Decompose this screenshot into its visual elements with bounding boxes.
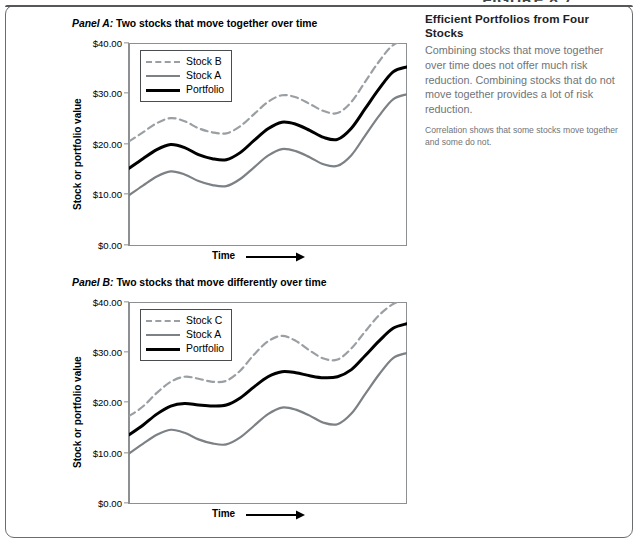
- legend-item[interactable]: Stock C: [146, 314, 224, 328]
- stock-c-line-icon: [146, 320, 180, 322]
- figure-page: FIGURE 8.7 Efficient Portfolios from Fou…: [0, 0, 640, 545]
- panel-b-ytick-10: $10.00: [78, 448, 122, 459]
- legend-label: Portfolio: [186, 343, 224, 355]
- panel-a-x-axis-label: Time: [212, 250, 235, 261]
- figure-number: FIGURE 8.7: [425, 0, 630, 2]
- stock-a-line-icon: [146, 75, 180, 77]
- panel-b-label: Panel B:: [72, 277, 114, 288]
- sidebar-body: Combining stocks that move together over…: [425, 43, 625, 116]
- sidebar-heading: Efficient Portfolios from Four Stocks: [425, 12, 625, 40]
- stock-a-line-icon: [146, 334, 180, 336]
- sidebar-note: Correlation shows that some stocks move …: [425, 125, 625, 148]
- panel-a-ytick-40: $40.00: [78, 38, 122, 49]
- legend-label: Portfolio: [186, 84, 224, 96]
- legend-item[interactable]: Portfolio: [146, 342, 224, 356]
- panel-a-label: Panel A:: [72, 18, 113, 29]
- panel-a-ytick-30: $30.00: [78, 88, 122, 99]
- panel-a-ytick-10: $10.00: [78, 189, 122, 200]
- legend-label: Stock A: [186, 70, 221, 82]
- stock-b-line-icon: [146, 61, 180, 63]
- legend-item[interactable]: Stock A: [146, 328, 224, 342]
- panel-b-x-axis-label: Time: [212, 508, 235, 519]
- panel-b-legend: Stock C Stock A Portfolio: [140, 309, 232, 361]
- legend-item[interactable]: Stock A: [146, 69, 224, 83]
- panel-b-ytick-20: $20.00: [78, 397, 122, 408]
- panel-a-ytick-0: $0.00: [78, 240, 122, 251]
- legend-label: Stock A: [186, 329, 221, 341]
- panel-a-title: Panel A: Two stocks that move together o…: [72, 18, 317, 29]
- panel-b-ytick-0: $0.00: [78, 498, 122, 509]
- legend-item[interactable]: Portfolio: [146, 83, 224, 97]
- panel-b-ytick-40: $40.00: [78, 297, 122, 308]
- panel-a-caption: Two stocks that move together over time: [116, 18, 317, 29]
- sidebar: Efficient Portfolios from Four Stocks Co…: [425, 12, 625, 148]
- panel-b-caption: Two stocks that move differently over ti…: [116, 277, 326, 288]
- portfolio-line-icon: [146, 348, 180, 351]
- legend-item[interactable]: Stock B: [146, 55, 224, 69]
- panel-a-ytick-20: $20.00: [78, 139, 122, 150]
- panel-b-x-arrow-icon: [246, 508, 306, 522]
- panel-b-title: Panel B: Two stocks that move differentl…: [72, 277, 326, 288]
- portfolio-line-icon: [146, 89, 180, 92]
- panel-a-x-arrow-icon: [246, 250, 306, 264]
- series-stock-a: [129, 353, 407, 453]
- legend-label: Stock C: [186, 315, 222, 327]
- legend-label: Stock B: [186, 56, 222, 68]
- panel-b-ytick-30: $30.00: [78, 347, 122, 358]
- panel-a-legend: Stock B Stock A Portfolio: [140, 50, 232, 102]
